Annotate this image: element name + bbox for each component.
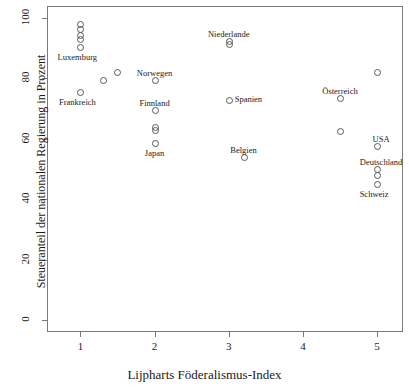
x-tick	[303, 332, 304, 337]
data-point	[152, 140, 159, 147]
y-tick-label: 0	[19, 306, 31, 332]
data-point	[152, 77, 159, 84]
point-label: Spanien	[235, 95, 262, 104]
data-point	[374, 172, 381, 179]
data-point	[152, 107, 159, 114]
y-tick-label: 100	[19, 4, 31, 30]
x-tick	[229, 332, 230, 337]
data-point	[77, 36, 84, 43]
x-tick-label: 4	[291, 340, 315, 352]
plot-area: LuxemburgFrankreichNorwegenFinnlandJapan…	[47, 6, 403, 332]
y-tick-label: 20	[19, 246, 31, 272]
point-label: Belgien	[230, 146, 256, 155]
y-tick	[42, 18, 47, 19]
point-label: Niederlande	[208, 30, 250, 39]
data-point	[241, 154, 248, 161]
data-point	[337, 128, 344, 135]
data-point	[152, 127, 159, 134]
data-point	[114, 69, 121, 76]
point-label: Norwegen	[137, 69, 172, 78]
scatter-chart: LuxemburgFrankreichNorwegenFinnlandJapan…	[0, 0, 409, 391]
y-tick-label: 40	[19, 185, 31, 211]
point-label: Deutschland	[360, 158, 403, 167]
data-point	[77, 89, 84, 96]
data-point	[374, 69, 381, 76]
data-point	[77, 44, 84, 51]
x-tick-label: 5	[365, 340, 389, 352]
data-point	[226, 97, 233, 104]
data-point	[374, 143, 381, 150]
x-axis-title: Lijpharts Föderalismus-Index	[0, 367, 409, 383]
point-label: Österreich	[322, 87, 357, 96]
x-tick	[80, 332, 81, 337]
y-axis-title: Steueranteil der nationalen Regierung in…	[34, 22, 49, 322]
point-label: Schweiz	[360, 190, 389, 199]
data-point	[337, 95, 344, 102]
data-point	[100, 77, 107, 84]
x-tick-label: 1	[68, 340, 92, 352]
point-label: Japan	[145, 149, 164, 158]
point-label: Luxemburg	[58, 53, 98, 62]
x-tick	[377, 332, 378, 337]
point-label: USA	[373, 135, 390, 144]
x-tick-label: 3	[217, 340, 241, 352]
x-tick-label: 2	[143, 340, 167, 352]
y-tick-label: 60	[19, 125, 31, 151]
x-tick	[155, 332, 156, 337]
data-point	[226, 41, 233, 48]
y-tick-label: 80	[19, 64, 31, 90]
point-label: Frankreich	[59, 98, 96, 107]
data-point	[374, 181, 381, 188]
point-label: Finnland	[139, 99, 169, 108]
